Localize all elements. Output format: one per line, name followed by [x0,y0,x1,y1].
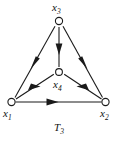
node-label-x4: x4 [53,79,62,90]
arrowhead-x3-x4 [56,44,63,56]
node-x2[interactable] [102,98,109,105]
edge-x1-x2 [16,98,102,105]
node-x1[interactable] [8,98,15,105]
tournament-graph-figure: x3 x4 x1 x2 T3 [0,0,118,141]
arrowhead-x4-x2 [77,84,90,91]
arrowhead-x1-x2 [47,98,59,105]
edge-x3-x4 [56,27,63,67]
node-label-x3-sub: 3 [57,7,61,16]
figure-caption: T3 [0,122,118,133]
node-label-x2: x2 [100,108,109,119]
node-label-x2-sub: 2 [105,113,109,122]
edges-group [15,26,103,105]
node-label-x4-sub: 4 [58,84,62,93]
node-label-x3: x3 [52,2,61,13]
graph-canvas [0,0,118,141]
arrowhead-x3-x1 [31,56,40,69]
node-x3[interactable] [55,17,62,24]
node-x4[interactable] [56,69,63,76]
arrowhead-x3-x2 [78,56,87,69]
node-label-x1-sub: 1 [8,113,12,122]
node-label-x1: x1 [3,108,12,119]
figure-caption-sub: 3 [60,127,64,136]
